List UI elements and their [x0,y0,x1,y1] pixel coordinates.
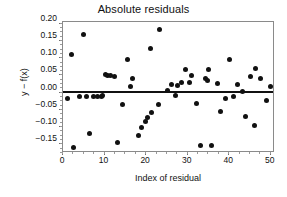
x-minor-tick [270,152,271,154]
chart-figure: Absolute residuals 0.200.150.100.050.00−… [0,0,287,197]
data-point [173,93,178,98]
x-tick-mark [228,152,229,155]
data-point [65,96,70,101]
data-point [194,101,199,106]
data-point [209,143,214,148]
x-tick-mark [270,152,271,155]
y-tick-label: −0.15 [22,133,57,143]
data-point [128,84,133,89]
data-point [187,80,192,85]
x-tick-label: 40 [215,155,241,165]
x-minor-tick [72,152,73,154]
x-minor-tick [145,152,146,154]
x-minor-tick [197,152,198,154]
x-tick-mark [62,152,63,155]
x-minor-tick [104,152,105,154]
x-tick-label: 30 [174,155,200,165]
data-point [248,74,253,79]
data-point [223,96,228,101]
data-point [268,84,273,89]
x-minor-tick [83,152,84,154]
x-minor-tick [156,152,157,154]
data-point [231,94,236,99]
data-point [206,67,211,72]
data-point [145,115,150,120]
data-point [130,76,135,81]
data-point [69,52,74,57]
x-tick-mark [145,152,146,155]
y-minor-tick [60,152,62,153]
data-point [120,102,125,107]
data-point [71,145,76,150]
data-point [264,98,269,103]
x-tick-label: 50 [257,155,283,165]
x-minor-tick [124,152,125,154]
data-point [125,57,130,62]
data-point [243,114,248,119]
data-point [149,110,154,115]
data-point [189,73,194,78]
x-minor-tick [114,152,115,154]
x-minor-tick [218,152,219,154]
data-point [235,82,240,87]
data-point [84,94,89,99]
data-point [227,57,232,62]
x-minor-tick [93,152,94,154]
data-point [205,78,210,83]
data-point [169,82,174,87]
data-point [253,66,258,71]
scatter-plot-area [63,22,273,151]
x-axis-label: Index of residual [62,173,274,183]
x-minor-tick [239,152,240,154]
data-point [157,27,162,32]
plot-frame [62,21,274,152]
data-point [143,119,148,124]
data-point [100,93,105,98]
data-point [218,109,223,114]
x-minor-tick [259,152,260,154]
data-point [87,131,92,136]
x-minor-tick [176,152,177,154]
x-minor-tick [228,152,229,154]
data-point [115,140,120,145]
chart-title: Absolute residuals [0,3,287,15]
data-point [240,89,245,94]
data-point [215,81,220,86]
x-minor-tick [187,152,188,154]
data-point [112,74,117,79]
data-point [165,88,170,93]
data-point [77,94,82,99]
x-minor-tick [135,152,136,154]
data-point [258,76,263,81]
x-tick-mark [187,152,188,155]
data-point [252,123,257,128]
data-point [81,32,86,37]
data-point [148,46,153,51]
x-tick-label: 20 [132,155,158,165]
x-tick-label: 0 [49,155,75,165]
x-minor-tick [207,152,208,154]
x-minor-tick [62,152,63,154]
x-tick-label: 10 [91,155,117,165]
x-minor-tick [249,152,250,154]
x-tick-mark [104,152,105,155]
data-point [179,80,184,85]
data-point [183,67,188,72]
data-point [198,143,203,148]
y-axis-label: y − f(x) [19,37,29,127]
data-point [156,102,161,107]
data-point [139,125,144,130]
x-minor-tick [166,152,167,154]
data-point [136,133,141,138]
